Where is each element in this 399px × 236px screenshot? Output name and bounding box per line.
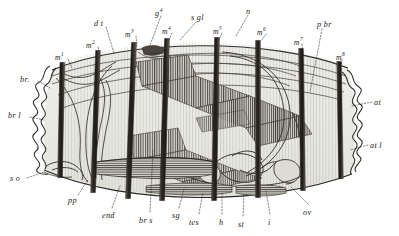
label-g4: g4 xyxy=(155,8,163,18)
label-end: end xyxy=(102,212,115,220)
label-sg: sg xyxy=(172,212,180,220)
figure-plate: m1m2d tm3g4m4s glm5nm6m7p brm8br.br ls o… xyxy=(0,0,399,236)
label-brs: br s xyxy=(139,217,153,225)
label-i: i xyxy=(268,219,271,227)
label-atl: at l xyxy=(370,142,382,150)
label-brl: br l xyxy=(8,112,21,120)
label-dt: d t xyxy=(94,20,103,28)
label-m4: m4 xyxy=(162,26,171,35)
label-sgl: s gl xyxy=(191,14,204,22)
label-h: h xyxy=(219,219,223,227)
label-m6: m6 xyxy=(257,27,266,36)
label-n: n xyxy=(246,8,250,16)
label-m2: m2 xyxy=(86,40,95,49)
label-at: at xyxy=(374,99,381,107)
label-st: st xyxy=(238,221,244,229)
anatomical-engraving xyxy=(0,0,399,236)
label-m7: m7 xyxy=(294,37,303,46)
label-br: br. xyxy=(20,76,29,84)
label-tes: tes xyxy=(189,219,199,227)
label-m1: m1 xyxy=(55,52,64,61)
label-m8: m8 xyxy=(336,52,345,61)
endostyle-band xyxy=(96,158,214,179)
label-m5: m5 xyxy=(213,26,222,35)
label-pp: pp xyxy=(68,197,77,205)
label-ov: ov xyxy=(303,209,311,217)
label-pbr: p br xyxy=(317,21,332,29)
label-m3: m3 xyxy=(125,29,134,38)
muscle-band-m6 xyxy=(256,41,261,198)
label-so: s o xyxy=(10,175,20,183)
